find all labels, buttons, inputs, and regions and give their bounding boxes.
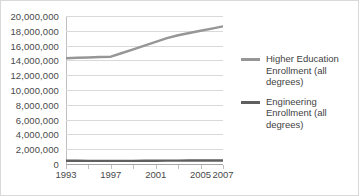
x-axis-tick-labels: 19931997200120052007 <box>66 169 223 189</box>
legend-swatch-icon <box>241 58 260 61</box>
y-axis-tick-label: 4,000,000 <box>16 129 59 140</box>
series-lines <box>66 16 223 164</box>
y-axis-tick-label: 18,000,000 <box>10 25 59 36</box>
y-axis-tick-label: 14,000,000 <box>10 55 59 66</box>
y-axis-tick-label: 10,000,000 <box>10 85 59 96</box>
y-axis-tick-labels: 20,000,00018,000,00016,000,00014,000,000… <box>1 1 65 196</box>
y-axis-tick-label: 16,000,000 <box>10 40 59 51</box>
legend-label: Engineering Enrollment (all degrees) <box>266 96 358 131</box>
line-chart: 20,000,00018,000,00016,000,00014,000,000… <box>0 0 359 196</box>
chart-legend: Higher Education Enrollment (all degrees… <box>241 53 359 138</box>
legend-entry: Engineering Enrollment (all degrees) <box>241 96 359 131</box>
y-axis-tick-label: 2,000,000 <box>16 144 59 155</box>
y-axis-tick-label: 20,000,000 <box>10 11 59 22</box>
series-line <box>66 26 223 58</box>
y-axis-tick-label: 8,000,000 <box>16 99 59 110</box>
y-axis-tick-label: 6,000,000 <box>16 114 59 125</box>
x-axis-tick-label: 1993 <box>55 169 76 180</box>
legend-entry: Higher Education Enrollment (all degrees… <box>241 53 359 88</box>
x-axis-tick-label: 2007 <box>212 169 233 180</box>
legend-swatch-icon <box>241 101 260 104</box>
x-axis-tick-label: 1997 <box>100 169 121 180</box>
x-axis-tick-label: 2005 <box>190 169 211 180</box>
legend-label: Higher Education Enrollment (all degrees… <box>266 53 358 88</box>
plot-area <box>66 16 223 164</box>
x-axis-line <box>66 164 223 165</box>
y-axis-tick-label: 12,000,000 <box>10 70 59 81</box>
x-axis-tick-label: 2001 <box>145 169 166 180</box>
y-axis-tick-label: 0 <box>54 159 59 170</box>
